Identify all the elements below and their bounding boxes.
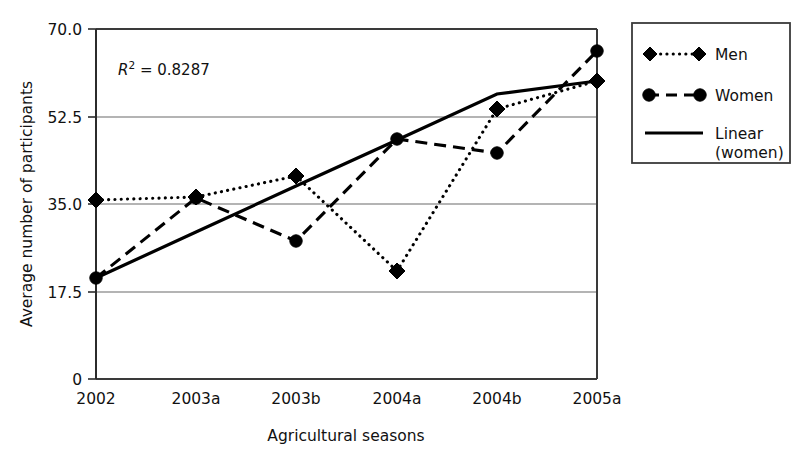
data-point-women-2002 bbox=[90, 272, 102, 284]
y-tick-label-35: 35.0 bbox=[47, 196, 82, 214]
y-tick-label-17-5: 17.5 bbox=[47, 284, 82, 302]
legend-label-men: Men bbox=[715, 46, 748, 64]
x-tick-label-2003a: 2003a bbox=[172, 390, 221, 408]
series-markers-men bbox=[88, 73, 605, 279]
data-point-men-2004b bbox=[489, 101, 505, 117]
y-axis-title: Average number of participants bbox=[18, 81, 36, 327]
data-point-men-2005a bbox=[589, 73, 605, 89]
x-tick-label-2004a: 2004a bbox=[373, 390, 422, 408]
y-tick-label-70: 70.0 bbox=[47, 21, 82, 39]
x-tick-label-2003b: 2003b bbox=[271, 390, 320, 408]
legend-label-linear: Linear bbox=[715, 125, 764, 143]
data-point-men-2003b bbox=[288, 168, 304, 184]
chart-legend: Men Women Linear (women) bbox=[632, 23, 790, 163]
y-tick-label-0: 0 bbox=[72, 371, 82, 389]
x-axis-title: Agricultural seasons bbox=[267, 427, 424, 445]
chart-figure: 70.0 52.5 35.0 17.5 0 Average number of … bbox=[0, 0, 802, 465]
y-tick-label-52-5: 52.5 bbox=[47, 109, 82, 127]
data-point-women-2003b bbox=[290, 235, 302, 247]
r-squared-exponent: 2 bbox=[128, 59, 135, 71]
x-tick-label-2002: 2002 bbox=[76, 390, 115, 408]
legend-label-women: Women bbox=[715, 87, 773, 105]
r-squared-annotation: R2 = 0.8287 bbox=[118, 59, 210, 79]
x-axis-tick-labels: 2002 2003a 2003b 2004a 2004b 2005a bbox=[76, 390, 621, 408]
data-point-women-2004b bbox=[491, 147, 503, 159]
data-point-women-2005a bbox=[591, 45, 603, 57]
y-axis-tick-labels: 70.0 52.5 35.0 17.5 0 bbox=[47, 21, 82, 389]
x-tick-label-2004b: 2004b bbox=[472, 390, 521, 408]
series-line-linear-women bbox=[96, 81, 597, 278]
x-tick-label-2005a: 2005a bbox=[573, 390, 622, 408]
legend-label-linear-sub: (women) bbox=[715, 144, 784, 162]
data-point-men-2002 bbox=[88, 192, 104, 208]
legend-marker-women-start bbox=[643, 89, 655, 101]
legend-marker-women-end bbox=[694, 89, 706, 101]
data-point-women-2004a bbox=[391, 133, 403, 145]
r-squared-symbol: R bbox=[118, 61, 128, 79]
plot-gridlines bbox=[96, 117, 597, 292]
r-squared-value: = 0.8287 bbox=[135, 61, 210, 79]
